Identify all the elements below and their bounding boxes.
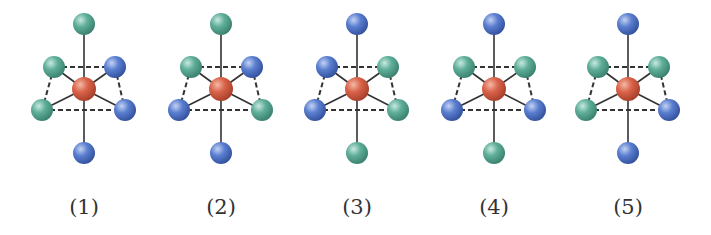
central-metal-atom <box>482 77 506 101</box>
ligand-atom-green-top <box>210 13 232 35</box>
isomer-structure-4: (4) <box>441 13 546 219</box>
ligand-atom-blue-lower-right <box>114 99 136 121</box>
isomer-structure-3: (3) <box>304 13 409 219</box>
ligand-atom-blue-bottom <box>73 142 95 164</box>
ligand-atom-green-lower-left <box>575 99 597 121</box>
ligand-atom-blue-upper-right <box>241 56 263 78</box>
isomer-figure: (1)(2)(3)(4)(5) <box>0 0 711 235</box>
ligand-atom-green-upper-left <box>43 56 65 78</box>
isomer-structure-1: (1) <box>31 13 136 219</box>
ligand-atom-blue-lower-right <box>524 99 546 121</box>
isomer-structure-5: (5) <box>575 13 680 219</box>
ligand-atom-blue-lower-right <box>658 99 680 121</box>
ligand-atom-blue-bottom <box>210 142 232 164</box>
ligand-atom-blue-top <box>483 13 505 35</box>
structure-label: (3) <box>342 195 372 219</box>
ligand-atom-blue-bottom <box>617 142 639 164</box>
ligand-atom-blue-lower-left <box>441 99 463 121</box>
ligand-atom-blue-top <box>346 13 368 35</box>
ligand-atom-green-lower-right <box>387 99 409 121</box>
ligand-atom-blue-upper-left <box>316 56 338 78</box>
ligand-atom-blue-upper-right <box>104 56 126 78</box>
central-metal-atom <box>209 77 233 101</box>
structure-label: (1) <box>69 195 99 219</box>
ligand-atom-blue-lower-left <box>168 99 190 121</box>
ligand-atom-blue-top <box>617 13 639 35</box>
structure-label: (2) <box>206 195 236 219</box>
ligand-atom-green-top <box>73 13 95 35</box>
ligand-atom-green-upper-left <box>587 56 609 78</box>
structure-label: (5) <box>613 195 643 219</box>
ligand-atom-green-upper-left <box>180 56 202 78</box>
ligand-atom-green-lower-right <box>251 99 273 121</box>
central-metal-atom <box>616 77 640 101</box>
structure-label: (4) <box>479 195 509 219</box>
ligand-atom-green-upper-right <box>514 56 536 78</box>
isomer-structure-2: (2) <box>168 13 273 219</box>
ligand-atom-green-upper-left <box>453 56 475 78</box>
ligand-atom-green-lower-left <box>31 99 53 121</box>
ligand-atom-green-upper-right <box>377 56 399 78</box>
ligand-atom-blue-lower-left <box>304 99 326 121</box>
central-metal-atom <box>345 77 369 101</box>
central-metal-atom <box>72 77 96 101</box>
ligand-atom-green-upper-right <box>648 56 670 78</box>
ligand-atom-green-bottom <box>483 142 505 164</box>
ligand-atom-green-bottom <box>346 142 368 164</box>
